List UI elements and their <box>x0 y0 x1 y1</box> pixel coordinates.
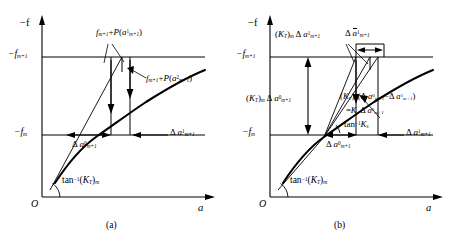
dim-arrow-delta0-left <box>66 132 75 138</box>
y-axis-label: −f <box>248 18 257 29</box>
leader-kt1-b <box>348 44 368 64</box>
panel-a-caption: (a) <box>106 220 117 230</box>
y-tick-fm: −fm <box>14 128 27 138</box>
panel-b-caption: (b) <box>334 220 345 230</box>
angle-arc <box>53 184 61 198</box>
bracket-arrow-left <box>357 47 365 53</box>
figure-root: −f a −fm+1 −fm O tan−1(KT)m fm+1+P(a1m+1… <box>0 0 457 243</box>
origin-label: O <box>259 199 266 209</box>
delta-abar-1-label: Δ a1m+1 <box>345 29 370 38</box>
delta-a-0-label: Δ a0m+1 <box>326 140 351 149</box>
x-axis-label: a <box>426 203 431 214</box>
y-tick-fm1: −fm+1 <box>236 50 256 60</box>
angle-label-kt: tan−1(KT)m <box>62 176 99 186</box>
y-axis-label: −f <box>20 18 29 29</box>
origin-label: O <box>31 199 38 209</box>
y-tick-fm1: −fm+1 <box>8 50 28 60</box>
leader-iter1-b <box>112 44 124 62</box>
kt-delta-a-1-label: (KT)m Δ a1m+1 <box>275 30 320 39</box>
y-tick-fm: −fm <box>242 128 255 138</box>
y-axis-arrow <box>267 15 273 25</box>
leader-iter2 <box>132 70 146 78</box>
bracket-arrow-right <box>375 47 383 53</box>
leader-kt1-a <box>346 44 354 62</box>
kt-difference-label: (KT)m(Δ a0m+1−Δ a1m+1) <box>340 92 415 101</box>
leader-iter1-a <box>104 44 108 63</box>
y-axis-arrow <box>39 15 45 25</box>
dim-arrow-delta1-left <box>132 132 141 138</box>
dim-arrow-delta1-left <box>378 132 387 138</box>
residual-arrowhead-1 <box>108 104 115 114</box>
delta-a-1-label: Δ a1m+1 <box>406 128 431 137</box>
dim-arrow-delta0-right <box>102 132 111 138</box>
tan-inv-ks-label: tan−1Ks <box>344 120 369 129</box>
delta-a-1-label: Δ a1m+1 <box>170 128 195 137</box>
kt-delta0-arrowhead-top <box>305 57 312 67</box>
force-label-iteration-2: fm+1+P(a2m+1) <box>146 74 192 83</box>
panel-b: −f a −fm+1 −fm O tan−1(KT)m (KT)m Δ a1m+… <box>228 0 457 243</box>
kt-delta-a-0-label: (KT)m Δ a0m+1 <box>246 94 291 103</box>
delta-a-0-label: Δ a0m+1 <box>72 140 97 149</box>
x-axis-arrow <box>205 194 215 200</box>
force-label-iteration-1: fm+1+P(a1m+1) <box>96 28 142 37</box>
angle-label-kt: tan−1(KT)m <box>290 176 327 186</box>
panel-a: −f a −fm+1 −fm O tan−1(KT)m fm+1+P(a1m+1… <box>0 0 229 243</box>
x-axis-label: a <box>198 203 203 214</box>
residual-arrowhead-2 <box>127 89 134 99</box>
x-axis-arrow <box>433 194 443 200</box>
ks-delta-a-0-label: =Ks Δ a0m+1 <box>346 106 384 115</box>
kt-delta0-arrowhead-bottom <box>305 125 312 135</box>
